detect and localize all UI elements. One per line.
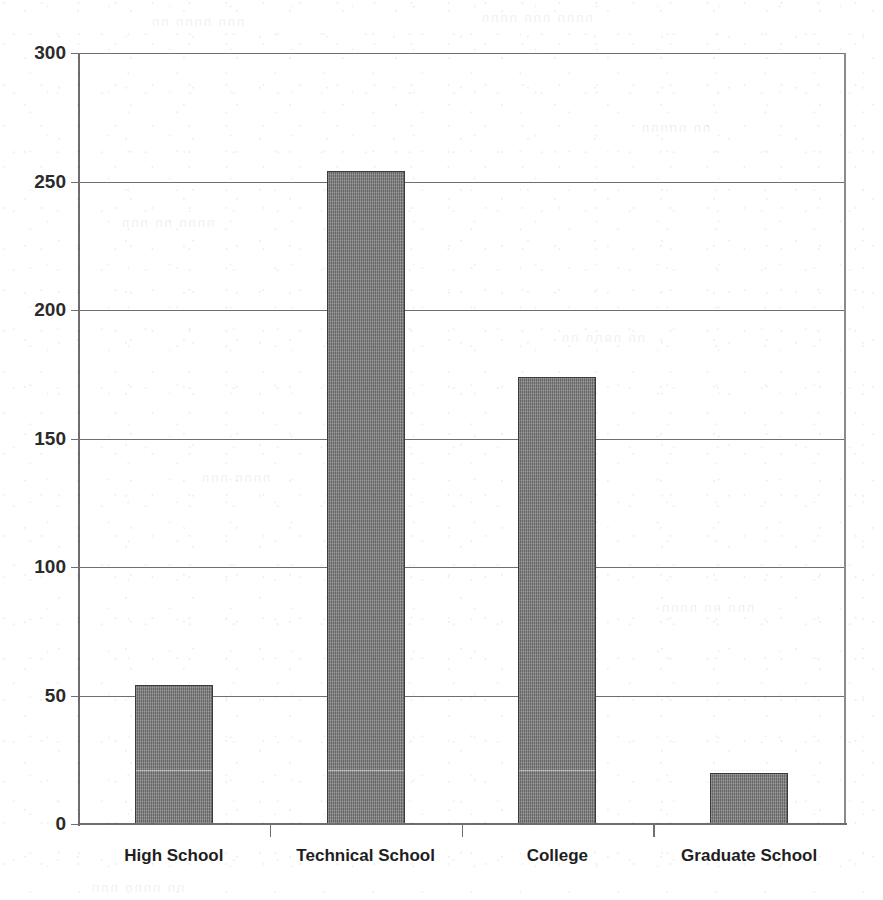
y-axis-label: 200 <box>34 299 66 321</box>
x-axis-label: Technical School <box>296 846 435 866</box>
gridline-100 <box>78 567 845 568</box>
y-axis-label: 250 <box>34 171 66 193</box>
gridline-200 <box>78 310 845 311</box>
ghost-text: nn nnnn nnn <box>90 880 184 895</box>
gridline-150 <box>78 439 845 440</box>
x-tick <box>270 824 272 837</box>
gridline-250 <box>78 182 845 183</box>
x-axis-label: Graduate School <box>681 846 817 866</box>
bar <box>518 377 596 824</box>
ghost-text: nnnn nnn nnnn <box>480 10 593 25</box>
x-axis-label: High School <box>124 846 223 866</box>
y-axis-label: 100 <box>34 556 66 578</box>
plot-right-edge <box>844 53 846 825</box>
bar-chart: 050100150200250300 <box>78 53 845 824</box>
y-axis-label: 300 <box>34 42 66 64</box>
gridline-300 <box>78 53 845 54</box>
y-axis-label: 0 <box>55 813 66 835</box>
x-tick <box>462 824 464 837</box>
bar <box>135 685 213 824</box>
bar <box>327 171 405 824</box>
x-tick <box>653 824 655 837</box>
y-axis-line <box>78 53 80 826</box>
x-axis-label: College <box>527 846 588 866</box>
y-axis-label: 50 <box>45 685 66 707</box>
y-axis-label: 150 <box>34 428 66 450</box>
bar <box>710 773 788 824</box>
ghost-text: nnn nnnn nn <box>150 14 244 29</box>
